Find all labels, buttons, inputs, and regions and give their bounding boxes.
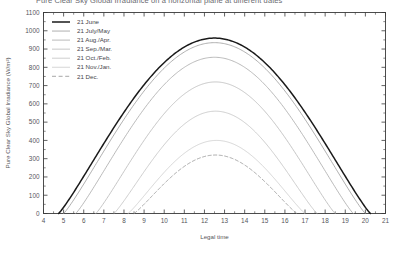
legend-label-1: 21 July/May (77, 27, 111, 34)
x-tick-label: 15 (261, 217, 269, 224)
x-tick-label: 13 (221, 217, 229, 224)
x-tick-label: 19 (342, 217, 350, 224)
x-tick-label: 8 (122, 217, 126, 224)
x-tick-label: 4 (42, 217, 46, 224)
x-tick-label: 5 (62, 217, 66, 224)
y-tick-label: 500 (29, 118, 40, 125)
x-tick-label: 10 (161, 217, 169, 224)
x-tick-label: 11 (181, 217, 188, 224)
x-tick-label: 20 (362, 217, 370, 224)
legend-label-4: 21 Oct./Feb. (77, 54, 111, 61)
x-tick-label: 12 (201, 217, 209, 224)
x-tick-label: 21 (382, 217, 390, 224)
y-tick-label: 300 (29, 155, 40, 162)
legend-label-3: 21 Sep./Mar. (77, 45, 112, 52)
legend-label-6: 21 Dec. (77, 73, 99, 80)
y-axis-title: Pure Clear Sky Global Irradiance (W/m²) (4, 57, 11, 168)
y-tick-label: 100 (29, 192, 40, 199)
y-tick-label: 800 (29, 64, 40, 71)
x-tick-label: 14 (241, 217, 249, 224)
x-tick-label: 6 (82, 217, 86, 224)
irradiance-line-chart: 0100200300400500600700800900100011004567… (0, 0, 399, 265)
x-tick-label: 18 (322, 217, 330, 224)
series-line-2 (76, 57, 354, 213)
y-tick-label: 200 (29, 173, 40, 180)
series-line-5 (128, 140, 305, 213)
x-tick-label: 9 (142, 217, 146, 224)
y-tick-label: 600 (29, 100, 40, 107)
x-tick-label: 7 (102, 217, 106, 224)
y-tick-label: 700 (29, 82, 40, 89)
legend-label-5: 21 Nov./Jan. (77, 63, 112, 70)
chart-figure: Pure Clear Sky Global Irradiance on a ho… (0, 0, 399, 265)
legend-label-0: 21 June (77, 18, 100, 25)
x-tick-label: 17 (301, 217, 309, 224)
y-tick-label: 900 (29, 45, 40, 52)
legend-label-2: 21 Aug./Apr. (77, 36, 111, 43)
y-tick-label: 400 (29, 137, 40, 144)
series-line-6 (134, 155, 297, 213)
y-tick-label: 1100 (26, 9, 40, 16)
x-tick-label: 16 (281, 217, 289, 224)
x-axis-title: Legal time (200, 233, 229, 240)
y-tick-label: 1000 (25, 27, 40, 34)
y-tick-label: 0 (36, 210, 40, 217)
series-line-4 (114, 111, 317, 213)
